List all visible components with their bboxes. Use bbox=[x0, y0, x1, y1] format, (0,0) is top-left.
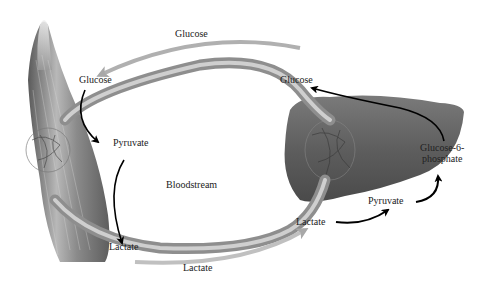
label-g6p-line2: phosphate bbox=[420, 153, 464, 164]
cori-cycle-diagram bbox=[0, 0, 484, 282]
label-g6p-line1: Glucose-6- bbox=[420, 142, 464, 153]
label-glucose-muscle: Glucose bbox=[79, 74, 112, 85]
label-bloodstream: Bloodstream bbox=[166, 179, 217, 190]
label-glucose-top: Glucose bbox=[175, 28, 208, 39]
pyruvate-to-g6p-arrow bbox=[416, 176, 438, 202]
lactate-to-pyruvate-arrow bbox=[336, 210, 388, 223]
label-lactate-muscle: Lactate bbox=[109, 241, 138, 252]
label-pyruvate-muscle: Pyruvate bbox=[113, 137, 149, 148]
label-glucose-liver: Glucose bbox=[280, 74, 313, 85]
pyruvate-to-lactate-arrow bbox=[114, 160, 124, 243]
label-pyruvate-liver: Pyruvate bbox=[368, 195, 404, 206]
label-lactate-bottom: Lactate bbox=[183, 262, 212, 273]
label-lactate-liver: Lactate bbox=[296, 216, 325, 227]
label-glucose-6-phosphate: Glucose-6- phosphate bbox=[420, 142, 464, 164]
